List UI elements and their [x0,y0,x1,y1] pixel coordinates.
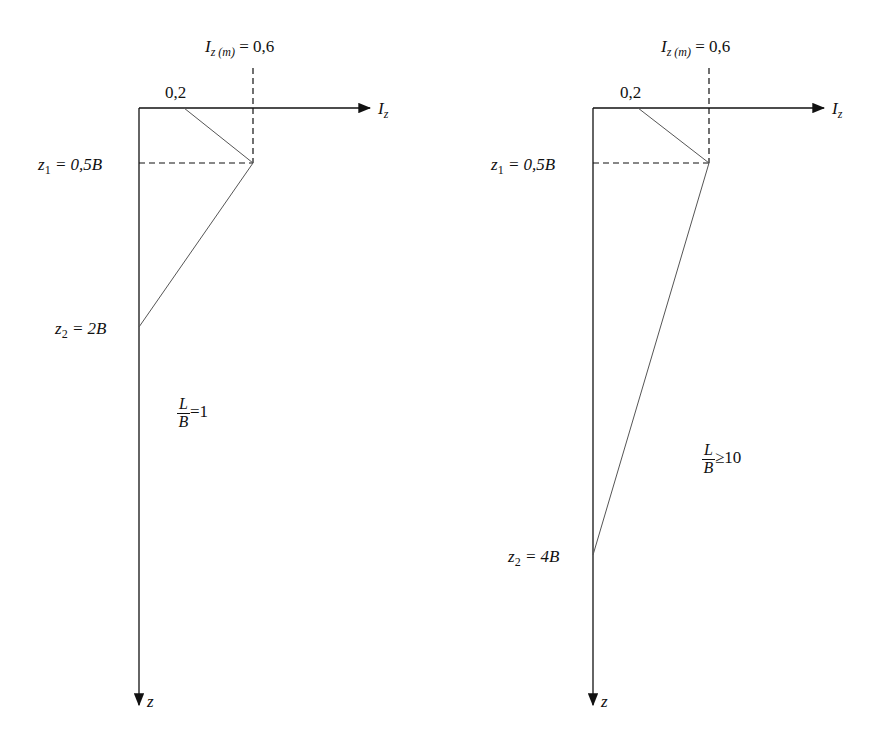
right-iz-axis-label: Iz [832,100,842,120]
left-iz-axis-label: Iz [378,100,388,120]
right-z-axis-label: z [601,693,608,710]
left-start-value: 0,2 [165,84,186,101]
diagram-canvas [0,0,879,745]
left-z-axis-label: z [147,693,154,710]
right-start-value: 0,2 [620,84,641,101]
left-z1-label: z1 = 0,5B [38,156,102,176]
right-z1-label: z1 = 0,5B [491,156,555,176]
right-ratio-label: LB≥10 [702,442,741,477]
right-strain-influence-chart [593,68,824,705]
right-influence-curve [593,108,709,555]
left-peak-label: Iz (m) = 0,6 [205,38,274,58]
left-z2-label: z2 = 2B [55,320,106,340]
right-peak-label: Iz (m) = 0,6 [661,38,730,58]
left-strain-influence-chart [139,68,370,705]
left-influence-curve [139,108,253,327]
right-z2-label: z2 = 4B [508,548,559,568]
left-ratio-label: LB=1 [177,396,208,431]
